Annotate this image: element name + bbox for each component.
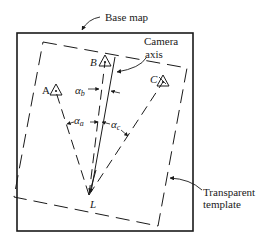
- transparent-template-leader: [170, 178, 202, 190]
- label-alpha-a: αa: [74, 114, 84, 128]
- transparent-template-outline: [14, 42, 187, 226]
- base-map-leader: [82, 17, 100, 30]
- label-c: C: [150, 73, 158, 85]
- alpha-b-arrow-right: [111, 91, 120, 93]
- label-l: L: [89, 198, 96, 210]
- label-alpha-c: αc: [111, 118, 121, 132]
- label-camera-axis-1: Camera: [144, 35, 178, 47]
- label-b: B: [90, 56, 97, 68]
- label-camera-axis-2: axis: [145, 48, 163, 60]
- triangle-c-icon: [157, 75, 169, 86]
- label-transparent-template-2: template: [203, 198, 241, 210]
- alpha-c-arrow-right: [121, 130, 128, 136]
- label-transparent-template-1: Transparent: [203, 186, 255, 198]
- alpha-a-arrow-left: [67, 122, 74, 124]
- label-base-map: Base map: [105, 11, 149, 23]
- triangle-a-icon: [50, 84, 62, 95]
- diagram-canvas: A B C L αb αa αc Base map Camera axis Tr…: [0, 0, 265, 245]
- label-a: A: [42, 84, 50, 96]
- ray-l-to-a: [56, 92, 89, 195]
- camera-axis-leader: [117, 58, 146, 72]
- label-alpha-b: αb: [75, 84, 85, 98]
